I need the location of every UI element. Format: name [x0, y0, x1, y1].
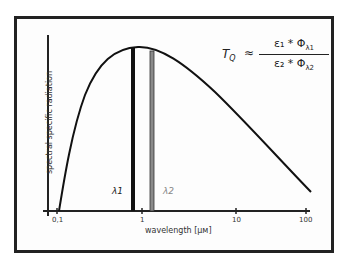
x-tick-label-1: 1 [140, 216, 144, 224]
numerator-text: ε₁ * Φ [274, 37, 306, 50]
x-axis-label: wavelength [µм] [145, 226, 212, 235]
lambda2-bar [150, 51, 154, 211]
formula-lhs: TQ [222, 47, 236, 63]
formula-approx: ≈ [244, 46, 254, 60]
lambda2-label: λ2 [163, 186, 174, 196]
fraction-bar [259, 54, 329, 55]
numerator-sub: λ1 [305, 44, 314, 52]
x-tick-label-100: 100 [299, 216, 312, 224]
formula-denominator: ε₂ * Φλ2 [259, 57, 329, 72]
x-tick-label-0.1: 0,1 [52, 216, 63, 224]
lambda1-label: λ1 [112, 186, 123, 196]
x-tick-label-10: 10 [232, 216, 241, 224]
formula-fraction: ε₁ * Φλ1 ε₂ * Φλ2 [259, 37, 329, 72]
y-axis-label: spectral specific radiation [45, 33, 54, 213]
lambda1-bar [131, 47, 135, 211]
denominator-sub: λ2 [305, 64, 314, 72]
denominator-text: ε₂ * Φ [274, 57, 306, 70]
formula-numerator: ε₁ * Φλ1 [259, 37, 329, 52]
formula-t-sub: Q [229, 54, 235, 63]
